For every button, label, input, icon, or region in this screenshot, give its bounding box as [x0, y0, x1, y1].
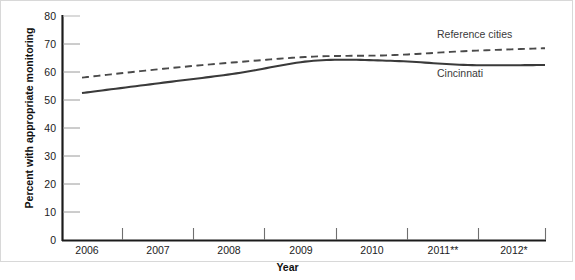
x-tick-marks — [123, 228, 546, 240]
x-tick-label-2006: 2006 — [52, 245, 122, 256]
x-axis-title: Year — [0, 261, 575, 273]
x-tick-label-2007: 2007 — [123, 245, 193, 256]
chart-figure: Percent with appropriate monitoring 80 7… — [0, 0, 575, 280]
series-label-reference-cities: Reference cities — [437, 28, 512, 40]
x-tick-label-2010: 2010 — [337, 245, 407, 256]
x-tick-label-2012: 2012* — [479, 245, 549, 256]
x-tick-label-2009: 2009 — [266, 245, 336, 256]
series-label-cincinnati: Cincinnati — [437, 67, 483, 79]
y-tick-marks — [63, 16, 80, 212]
plot-area — [0, 0, 575, 280]
x-tick-label-2011: 2011** — [408, 245, 478, 256]
x-tick-label-2008: 2008 — [194, 245, 264, 256]
